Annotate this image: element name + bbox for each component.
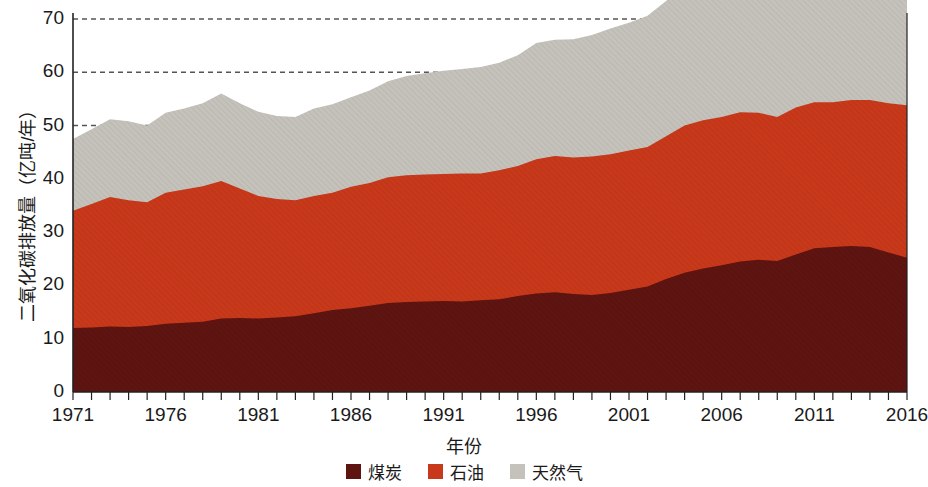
x-tick-label: 1986 <box>316 404 386 426</box>
y-tick-label: 50 <box>18 114 64 136</box>
y-tick-label: 10 <box>18 327 64 349</box>
x-tick-label: 1971 <box>38 404 108 426</box>
x-axis-ticks <box>73 392 907 400</box>
y-tick-label: 0 <box>18 380 64 402</box>
x-axis-title: 年份 <box>0 432 928 458</box>
x-tick-label: 2016 <box>872 404 928 426</box>
x-tick-label: 1991 <box>409 404 479 426</box>
x-tick-label: 1976 <box>131 404 201 426</box>
y-tick-label: 20 <box>18 273 64 295</box>
x-tick-label: 2001 <box>594 404 664 426</box>
area-series-group <box>73 0 907 392</box>
legend-item: 天然气 <box>510 459 583 484</box>
legend-item: 石油 <box>428 459 484 484</box>
legend-swatch <box>510 464 525 479</box>
y-tick-label: 40 <box>18 167 64 189</box>
x-tick-label: 1981 <box>223 404 293 426</box>
y-tick-label: 60 <box>18 60 64 82</box>
legend-item: 煤炭 <box>346 459 402 484</box>
x-tick-label: 1996 <box>501 404 571 426</box>
x-tick-label: 2006 <box>687 404 757 426</box>
legend-label: 天然气 <box>532 459 583 484</box>
legend-swatch <box>428 464 443 479</box>
legend-swatch <box>346 464 361 479</box>
legend-label: 煤炭 <box>368 459 402 484</box>
x-tick-label: 2011 <box>779 404 849 426</box>
chart-legend: 煤炭石油天然气 <box>0 459 928 484</box>
co2-emissions-stacked-area-chart: 二氧化碳排放量（亿吨/年） 010203040506070 1971197619… <box>0 0 928 487</box>
legend-label: 石油 <box>450 459 484 484</box>
y-tick-label: 30 <box>18 220 64 242</box>
y-tick-label: 70 <box>18 7 64 29</box>
